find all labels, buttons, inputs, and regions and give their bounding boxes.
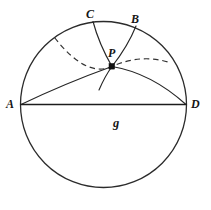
- vertex-label-d: D: [191, 98, 200, 110]
- figure-canvas: [0, 0, 211, 210]
- line-label-g: g: [113, 117, 119, 130]
- vertex-label-b: B: [131, 13, 139, 25]
- vertex-label-p: P: [108, 47, 115, 59]
- arc-p-to-d: [112, 67, 186, 105]
- point-marker-p: [109, 64, 115, 70]
- vertex-label-c: C: [86, 8, 94, 20]
- arc-p-to-b: [112, 26, 136, 67]
- vertex-label-a: A: [6, 98, 14, 110]
- hyperbolic-geometry-figure: A B C D P g: [0, 0, 211, 210]
- arc-p-to-a: [21, 67, 112, 105]
